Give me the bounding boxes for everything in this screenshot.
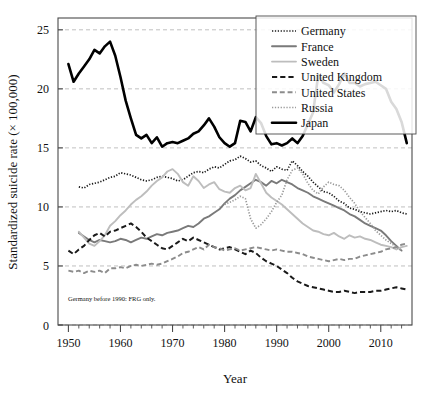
- x-tick-label: 1970: [161, 336, 185, 350]
- y-axis-label: Standardized suicide rate (× 100,000): [5, 74, 20, 269]
- annotation-germany-frg: Germany before 1990: FRG only.: [68, 295, 156, 302]
- y-tick-label: 20: [37, 82, 49, 96]
- x-tick-label: 1990: [265, 336, 289, 350]
- chart-legend: GermanyFranceSwedenUnited KingdomUnited …: [256, 16, 416, 134]
- legend-label-united-states: United States: [301, 86, 366, 100]
- chart-annotation: Germany before 1990: FRG only.: [68, 295, 156, 302]
- x-tick-label: 1980: [213, 336, 237, 350]
- suicide-rate-line-chart: 05101520251950196019701980199020002010 G…: [0, 0, 430, 397]
- legend-label-russia: Russia: [301, 101, 334, 115]
- legend-label-germany: Germany: [301, 24, 346, 38]
- legend-label-sweden: Sweden: [301, 55, 339, 69]
- x-tick-label: 2000: [317, 336, 341, 350]
- x-axis-label: Year: [223, 371, 248, 386]
- y-tick-label: 25: [37, 23, 49, 37]
- x-tick-label: 1960: [108, 336, 132, 350]
- legend-label-united-kingdom: United Kingdom: [301, 70, 383, 84]
- x-tick-label: 2010: [369, 336, 393, 350]
- y-tick-label: 10: [37, 200, 49, 214]
- y-tick-label: 0: [43, 319, 49, 333]
- x-tick-label: 1950: [56, 336, 80, 350]
- legend-label-japan: Japan: [301, 116, 328, 130]
- y-tick-label: 15: [37, 141, 49, 155]
- y-tick-label: 5: [43, 259, 49, 273]
- legend-label-france: France: [301, 40, 334, 54]
- chart-figure: 05101520251950196019701980199020002010 G…: [0, 0, 430, 397]
